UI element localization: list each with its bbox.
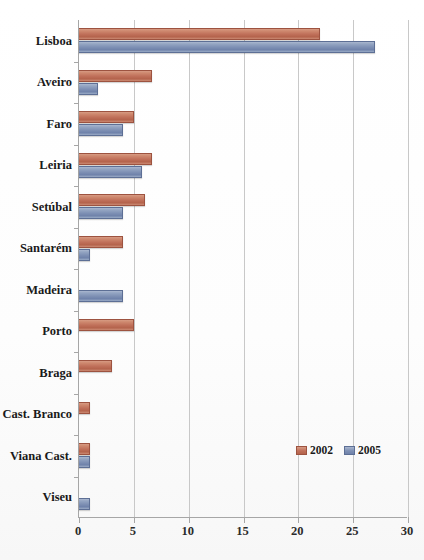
category-label: Aveiro [0, 75, 72, 90]
category-label: Porto [0, 324, 72, 339]
category-label: Lisboa [0, 33, 72, 48]
bar-2005-madeira [79, 290, 123, 302]
category-label: Braga [0, 365, 72, 380]
y-axis-tick [74, 103, 79, 104]
legend-swatch-2002-icon [296, 446, 307, 455]
gridline [244, 20, 245, 517]
y-axis-tick [74, 269, 79, 270]
y-axis-tick [74, 435, 79, 436]
x-axis-tick [79, 517, 80, 523]
x-axis-tick [189, 517, 190, 523]
bar-2002-faro [79, 111, 134, 123]
bar-2002-porto [79, 319, 134, 331]
bar-2005-set-bal [79, 207, 123, 219]
category-label: Viana Cast. [0, 448, 72, 463]
category-label: Cast. Branco [0, 407, 72, 422]
category-label: Madeira [0, 282, 72, 297]
x-axis-tick-label: 20 [277, 524, 317, 539]
x-axis-tick-label: 10 [168, 524, 208, 539]
legend-swatch-2005-icon [344, 446, 355, 455]
bar-2002-santar-m [79, 236, 123, 248]
bar-2005-santar-m [79, 249, 90, 261]
bar-2002-set-bal [79, 194, 145, 206]
bar-2005-lisboa [79, 41, 375, 53]
category-label: Leiria [0, 158, 72, 173]
category-label: Faro [0, 116, 72, 131]
x-axis-tick-label: 5 [113, 524, 153, 539]
bar-2002-lisboa [79, 28, 320, 40]
chart-title [0, 0, 424, 10]
bar-2005-aveiro [79, 83, 98, 95]
gridline [353, 20, 354, 517]
x-axis-tick-label: 30 [387, 524, 424, 539]
chart-legend: 2002 2005 [296, 444, 381, 456]
bar-2002-aveiro [79, 70, 152, 82]
x-axis-tick [298, 517, 299, 523]
y-axis-tick [74, 311, 79, 312]
legend-item-2005[interactable]: 2005 [344, 444, 381, 456]
bar-2005-viana-cast [79, 456, 90, 468]
x-axis-tick-label: 15 [223, 524, 263, 539]
y-axis-tick [74, 145, 79, 146]
category-label: Viseu [0, 490, 72, 505]
bar-2002-cast-branco [79, 402, 90, 414]
y-axis-tick [74, 477, 79, 478]
legend-label-2002: 2002 [310, 444, 333, 456]
x-axis-tick-label: 0 [58, 524, 98, 539]
gridline [298, 20, 299, 517]
x-axis-tick [353, 517, 354, 523]
y-axis-tick [74, 352, 79, 353]
category-label: Setúbal [0, 199, 72, 214]
x-axis-tick-label: 25 [332, 524, 372, 539]
bar-2005-leiria [79, 166, 142, 178]
bar-2005-viseu [79, 498, 90, 510]
bar-2002-viana-cast [79, 443, 90, 455]
bar-2005-faro [79, 124, 123, 136]
x-axis-tick [134, 517, 135, 523]
y-axis-tick [74, 62, 79, 63]
category-label: Santarém [0, 241, 72, 256]
bar-2002-leiria [79, 153, 152, 165]
gridline [189, 20, 190, 517]
gridline [134, 20, 135, 517]
y-axis-tick [74, 186, 79, 187]
x-axis-tick [408, 517, 409, 523]
bar-2002-braga [79, 360, 112, 372]
bar-chart: 2002 2005 051015202530LisboaAveiroFaroLe… [0, 0, 424, 560]
y-axis-tick [74, 394, 79, 395]
x-axis-tick [244, 517, 245, 523]
y-axis-tick [74, 228, 79, 229]
legend-item-2002[interactable]: 2002 [296, 444, 333, 456]
gridline [408, 20, 409, 517]
legend-label-2005: 2005 [358, 444, 381, 456]
